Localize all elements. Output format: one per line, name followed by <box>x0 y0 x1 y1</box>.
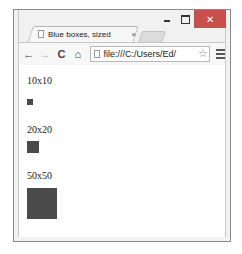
url-text: file:///C:/Users/Ed/ <box>104 49 177 59</box>
page-icon <box>94 50 100 58</box>
browser-window: ✕ Blue boxes, sized × ← → C ⌂ file:///C:… <box>13 9 231 242</box>
close-icon: ✕ <box>206 14 214 25</box>
back-icon[interactable]: ← <box>22 47 35 61</box>
menu-icon-bar <box>216 57 225 59</box>
browser-toolbar: ← → C ⌂ file:///C:/Users/Ed/ ☆ <box>19 42 225 66</box>
minimize-icon <box>164 20 170 22</box>
tab-strip: Blue boxes, sized × <box>24 24 224 42</box>
bookmark-star-icon[interactable]: ☆ <box>198 47 208 60</box>
menu-icon-bar <box>216 53 225 55</box>
box-20x20 <box>27 141 39 153</box>
label-50x50: 50x50 <box>27 170 52 181</box>
label-10x10: 10x10 <box>27 75 52 86</box>
reload-icon[interactable]: C <box>55 47 68 61</box>
box-50x50 <box>27 188 57 219</box>
address-bar[interactable]: file:///C:/Users/Ed/ ☆ <box>90 46 211 62</box>
page-icon <box>38 30 44 38</box>
tab-title: Blue boxes, sized <box>48 30 111 39</box>
menu-button[interactable] <box>216 49 225 59</box>
page-content: 10x10 20x20 50x50 <box>19 65 225 237</box>
home-icon[interactable]: ⌂ <box>71 47 84 61</box>
tab-close-button[interactable]: × <box>131 30 136 39</box>
label-20x20: 20x20 <box>27 124 52 135</box>
forward-icon[interactable]: → <box>38 47 51 61</box>
maximize-icon <box>181 15 190 24</box>
box-10x10 <box>27 99 33 105</box>
menu-icon-bar <box>216 49 225 51</box>
tab-blue-boxes[interactable]: Blue boxes, sized × <box>38 27 136 41</box>
